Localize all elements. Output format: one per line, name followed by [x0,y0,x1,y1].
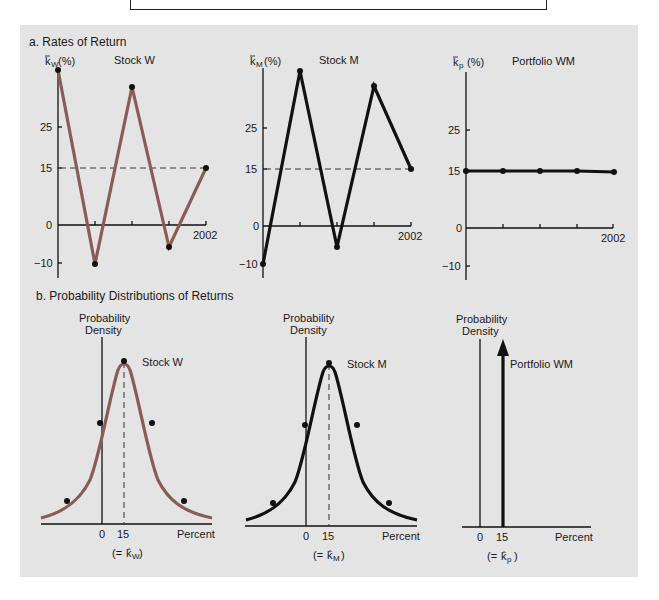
ylabel-sub: p [459,61,464,70]
x-tick-15: 15 [496,531,508,543]
ylabel-pct: (%) [58,55,75,67]
figure-canvas: .ax { stroke:#111; stroke-width:1.3; fil… [0,0,659,600]
x-tick-0: 0 [99,528,105,540]
y-tick-0: 0 [46,219,52,231]
stock-m-line [263,71,411,264]
y-tick-15: 15 [40,162,52,174]
ylabel-probability: Probability [79,312,131,324]
chart-title: Stock M [319,54,359,66]
y-tick-0: 0 [456,222,462,234]
x-tick-2002: 2002 [398,230,422,242]
y-tick-25: 25 [448,124,460,136]
x-tick-2002: 2002 [193,229,217,241]
ylabel-pct: (%) [264,55,281,67]
arrowhead-icon [497,339,509,356]
mean-annotation-open: (= [112,547,122,559]
x-tick-0: 0 [303,530,309,542]
xlabel-percent: Percent [555,531,593,543]
ylabel-probability: Probability [283,312,335,324]
chart-stock-m-distribution: Probability Density Stock M 0 15 Percent… [245,312,420,563]
mean-annotation-sub: p [507,555,512,564]
mean-annotation-close: ) [139,547,143,559]
chart-portfolio-distribution: Probability Density Portfolio WM 0 15 Pe… [456,313,593,564]
chart-title: Stock W [114,54,156,66]
xlabel-percent: Percent [382,530,420,542]
mean-annotation-close: ) [514,550,518,562]
y-tick-neg10: −10 [239,258,258,270]
mean-annotation-sub: M [333,554,340,563]
ylabel-density: Density [290,324,327,336]
ylabel-density: Density [462,325,499,337]
y-tick-neg10: −10 [34,257,53,269]
chart-portfolio-returns: k p (%) Portfolio WM 25 15 0 −10 2002 [442,55,625,280]
ylabel-probability: Probability [456,313,508,325]
x-tick-0: 0 [477,531,483,543]
mean-annotation-open: (= [313,549,323,561]
ylabel-pct: (%) [467,56,484,68]
y-tick-25: 25 [40,121,52,133]
section-a-title: a. Rates of Return [29,35,126,49]
xlabel-percent: Percent [177,528,215,540]
y-tick-neg10: −10 [442,260,461,272]
y-tick-15: 15 [448,165,460,177]
stock-w-curve [41,364,212,518]
stock-m-curve [246,366,417,520]
x-tick-15: 15 [117,528,129,540]
y-tick-25: 25 [245,122,257,134]
y-tick-0: 0 [253,220,259,232]
curve-label: Stock M [347,358,387,370]
mean-annotation-close: ) [341,549,345,561]
x-tick-15: 15 [322,530,334,542]
chart-title: Portfolio WM [512,55,575,67]
spike-label: Portfolio WM [510,358,573,370]
section-b-title: b. Probability Distributions of Returns [36,289,233,303]
curve-label: Stock W [142,356,184,368]
chart-stock-w-distribution: Probability Density Stock W 0 15 Percent… [41,312,215,561]
y-tick-15: 15 [245,163,257,175]
ylabel-density: Density [85,324,122,336]
ylabel-sub: M [256,60,263,69]
x-tick-2002: 2002 [601,232,625,244]
chart-stock-m-returns: k M (%) Stock M 25 15 0 −10 2002 [239,54,422,278]
stock-w-line [58,70,206,264]
chart-stock-w-returns: k W (%) Stock W 25 15 0 −10 2002 [34,54,217,278]
mean-annotation-open: (= [487,550,497,562]
